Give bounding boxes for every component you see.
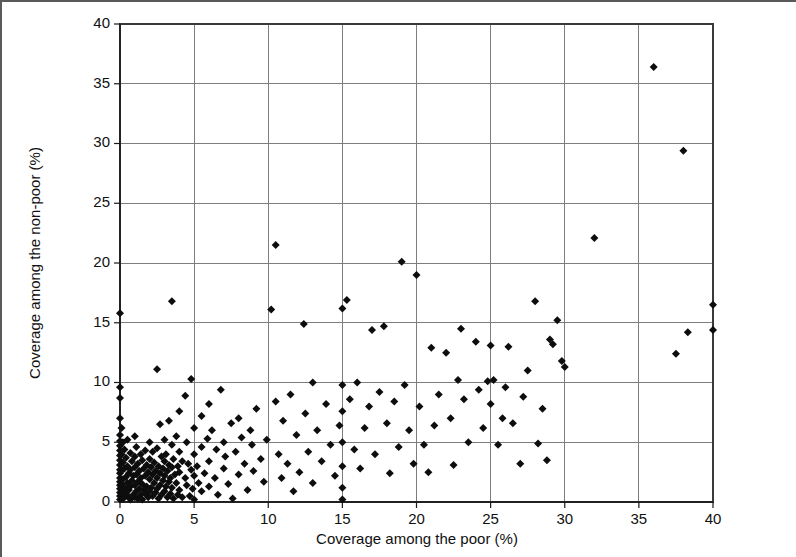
scatter-plot: 05101520253035400510152025303540 Coverag…: [2, 2, 796, 557]
y-tick-label: 15: [93, 313, 110, 330]
y-tick-label: 10: [93, 372, 110, 389]
x-tick-label: 0: [116, 510, 124, 527]
x-tick-label: 5: [190, 510, 198, 527]
x-axis-title: Coverage among the poor (%): [316, 530, 518, 547]
x-tick-label: 40: [705, 510, 722, 527]
y-tick-label: 0: [102, 492, 110, 509]
y-axis-title: Coverage among the non-poor (%): [26, 147, 43, 379]
y-tick-label: 25: [93, 193, 110, 210]
y-tick-label: 20: [93, 253, 110, 270]
x-tick-label: 30: [556, 510, 573, 527]
y-tick-label: 35: [93, 74, 110, 91]
x-tick-label: 10: [260, 510, 277, 527]
y-tick-label: 40: [93, 14, 110, 31]
y-tick-label: 30: [93, 133, 110, 150]
y-tick-label: 5: [102, 432, 110, 449]
x-tick-label: 20: [408, 510, 425, 527]
x-tick-label: 15: [334, 510, 351, 527]
x-tick-label: 35: [631, 510, 648, 527]
x-tick-label: 25: [482, 510, 499, 527]
figure-container: 05101520253035400510152025303540 Coverag…: [0, 0, 796, 557]
